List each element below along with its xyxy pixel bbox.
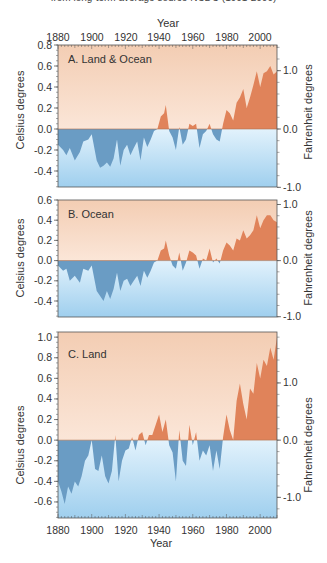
- y-tick-label: -0.2: [34, 274, 52, 286]
- svg-text:1900: 1900: [80, 31, 104, 43]
- f-tick-label: -1.0: [283, 491, 301, 503]
- bottom-x-axis-title: Year: [150, 537, 173, 549]
- top-x-axis-title: Year: [157, 17, 180, 29]
- y-tick-label: 0.8: [37, 39, 52, 51]
- f-tick-label: -1.0: [283, 310, 301, 322]
- svg-text:1920: 1920: [114, 524, 138, 536]
- temperature-anomaly-chart: Year 1880 1900 1920 1940 1960 1980 2000 …: [0, 0, 327, 563]
- panel-label-ocean: B. Ocean: [68, 208, 114, 220]
- y-tick-label: 0.6: [37, 372, 52, 384]
- svg-text:1940: 1940: [147, 524, 171, 536]
- svg-text:1940: 1940: [147, 31, 171, 43]
- y-tick-label: 0.2: [37, 102, 52, 114]
- svg-text:1960: 1960: [181, 524, 205, 536]
- svg-text:1960: 1960: [181, 31, 205, 43]
- y-tick-label: 0.2: [37, 234, 52, 246]
- cool-background: [58, 440, 277, 518]
- f-tick-label: 0.0: [283, 434, 298, 446]
- y-tick-label: 0.2: [37, 413, 52, 425]
- bottom-x-axis-labels: 1880 1900 1920 1940 1960 1980 2000: [46, 524, 272, 536]
- y-tick-label: 0.4: [37, 214, 52, 226]
- fahrenheit-axis-title-c: Fahrenheit degrees: [302, 397, 314, 493]
- f-tick-label: 0.0: [283, 254, 298, 266]
- y-tick-label: 0.6: [37, 60, 52, 72]
- svg-text:2000: 2000: [248, 524, 272, 536]
- svg-text:1880: 1880: [46, 524, 70, 536]
- y-tick-label: -0.6: [34, 495, 52, 507]
- svg-text:1920: 1920: [114, 31, 138, 43]
- y-tick-label: -0.4: [34, 165, 52, 177]
- celsius-axis-title-c: Celsius degrees: [14, 405, 26, 484]
- y-tick-label: 1.0: [37, 331, 52, 343]
- panel-label-land: C. Land: [68, 348, 107, 360]
- f-tick-label: 1.0: [283, 198, 298, 210]
- y-tick-label: -0.4: [34, 295, 52, 307]
- y-tick-label: -0.2: [34, 454, 52, 466]
- f-tick-label: 1.0: [283, 376, 298, 388]
- f-tick-label: 1.0: [283, 64, 298, 76]
- celsius-axis-title-b: Celsius degrees: [14, 218, 26, 297]
- cool-background: [58, 129, 277, 187]
- y-tick-label: 0.0: [37, 434, 52, 446]
- svg-text:1980: 1980: [215, 31, 239, 43]
- fahrenheit-axis-title-b: Fahrenheit degrees: [302, 210, 314, 306]
- svg-text:2000: 2000: [248, 31, 272, 43]
- y-tick-label: 0.6: [37, 194, 52, 206]
- y-tick-label: 0.0: [37, 254, 52, 266]
- celsius-axis-title-a: Celsius degrees: [14, 70, 26, 149]
- svg-text:1980: 1980: [215, 524, 239, 536]
- y-tick-label: 0.8: [37, 351, 52, 363]
- y-tick-label: 0.4: [37, 81, 52, 93]
- f-tick-label: 0.0: [283, 123, 298, 135]
- panel-label-land-ocean: A. Land & Ocean: [68, 53, 152, 65]
- y-tick-label: 0.0: [37, 123, 52, 135]
- y-tick-label: -0.4: [34, 475, 52, 487]
- y-tick-label: -0.2: [34, 144, 52, 156]
- f-tick-label: -1.0: [283, 181, 301, 193]
- fahrenheit-axis-title-a: Fahrenheit degrees: [302, 64, 314, 160]
- y-tick-label: 0.4: [37, 392, 52, 404]
- cool-background: [58, 261, 277, 317]
- svg-text:1900: 1900: [80, 524, 104, 536]
- top-x-axis-labels: 1880 1900 1920 1940 1960 1980 2000: [46, 31, 272, 43]
